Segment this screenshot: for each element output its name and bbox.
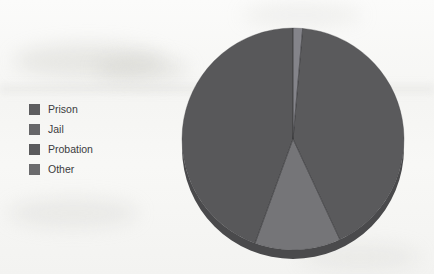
legend-swatch-other <box>29 164 40 175</box>
legend-swatch-jail <box>29 124 40 135</box>
legend-swatch-probation <box>29 144 40 155</box>
legend-label-prison: Prison <box>48 104 78 115</box>
legend-swatch-prison <box>29 104 40 115</box>
legend-item-jail[interactable]: Jail <box>29 119 93 139</box>
legend-label-jail: Jail <box>48 124 64 135</box>
legend-item-other[interactable]: Other <box>29 159 93 179</box>
legend-label-probation: Probation <box>48 144 93 155</box>
legend-item-probation[interactable]: Probation <box>29 139 93 159</box>
legend-label-other: Other <box>48 164 74 175</box>
legend-item-prison[interactable]: Prison <box>29 99 93 119</box>
chart-page: Prison Jail Probation Other <box>0 0 434 274</box>
pie-slice-group <box>182 28 404 250</box>
chart-legend: Prison Jail Probation Other <box>29 99 93 179</box>
